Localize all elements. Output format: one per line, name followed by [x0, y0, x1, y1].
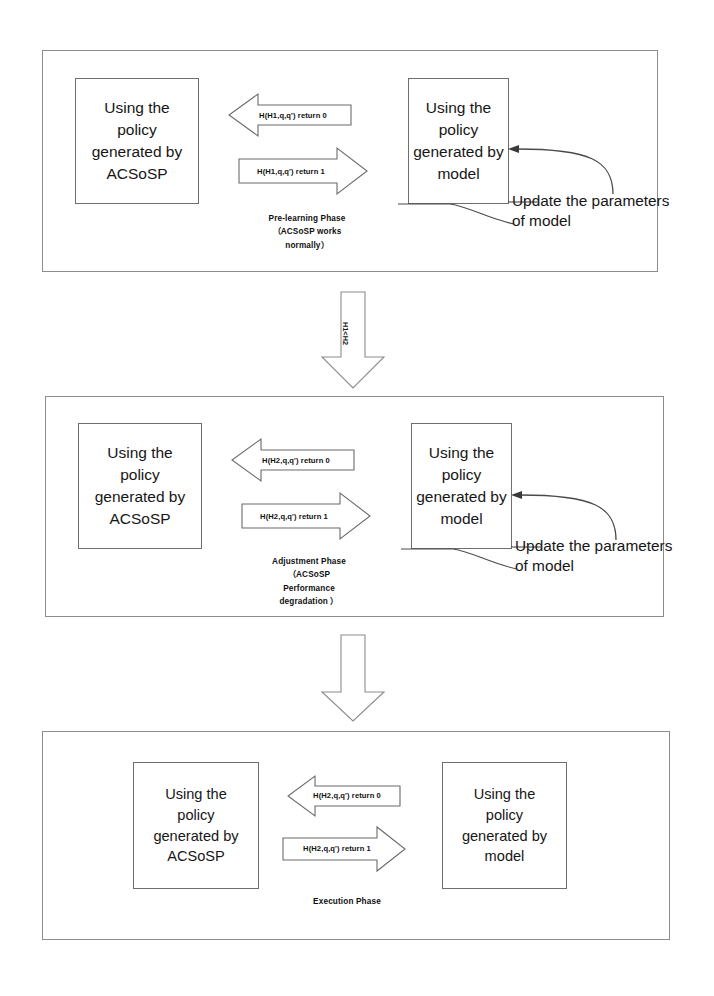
connector-arrow-1	[316, 291, 390, 389]
connector-label-h1-h2: H1<H2	[341, 314, 350, 354]
diagram-canvas: Using thepolicygenerated byACSoSP Using …	[0, 0, 714, 996]
arrow-label-return1-execution: H(H2,q,q') return 1	[287, 844, 387, 853]
phase-caption-adjustment: Adjustment Phase（ACSoSPPerformancedegrad…	[245, 555, 373, 608]
policy-box-model-pre-learning: Using thepolicygenerated bymodel	[408, 78, 509, 204]
policy-box-model-adjustment: Using thepolicygenerated bymodel	[411, 423, 512, 549]
policy-box-acsosp-pre-learning: Using thepolicygenerated byACSoSP	[75, 78, 199, 204]
update-parameters-note-adjustment: Update the parametersof model	[515, 536, 714, 576]
policy-box-acsosp-execution: Using thepolicygenerated byACSoSP	[133, 762, 259, 889]
policy-box-acsosp-adjustment: Using thepolicygenerated byACSoSP	[78, 423, 202, 549]
connector-arrow-2	[316, 634, 390, 722]
phase-caption-execution: Execution Phase	[282, 895, 412, 908]
update-parameters-note-pre-learning: Update the parametersof model	[512, 191, 712, 231]
arrow-label-return0-execution: H(H2,q,q') return 0	[296, 791, 398, 800]
arrow-label-return1-adjustment: H(H2,q,q') return 1	[244, 512, 344, 521]
arrow-label-return1-pre-learning: H(H1,q,q') return 1	[241, 167, 341, 176]
phase-caption-pre-learning: Pre-learning Phase（ACSoSP worksnormally）	[232, 212, 382, 252]
arrow-label-return0-adjustment: H(H2,q,q') return 0	[241, 456, 351, 465]
feedback-curve-arrow-pre-learning	[505, 130, 625, 200]
policy-box-model-execution: Using thepolicygenerated bymodel	[442, 762, 567, 889]
arrow-label-return0-pre-learning: H(H1,q,q') return 0	[238, 111, 348, 120]
